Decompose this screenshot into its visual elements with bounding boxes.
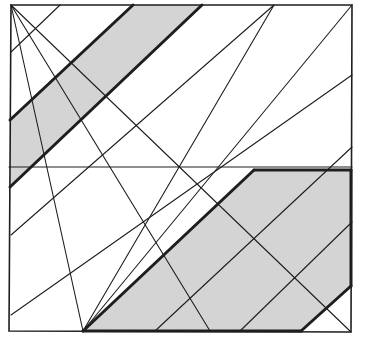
geometry-diagram	[0, 0, 365, 361]
lower-polygon-region	[83, 170, 351, 331]
